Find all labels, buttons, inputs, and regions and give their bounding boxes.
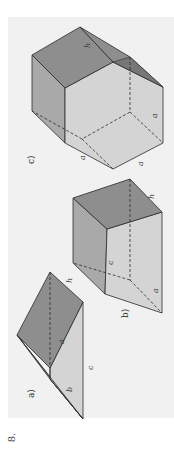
prism-c: h a a a c) bbox=[26, 27, 163, 169]
edge-label-a: a bbox=[78, 155, 87, 160]
figure-number: 8. bbox=[6, 433, 17, 443]
edge-label-c: c bbox=[86, 365, 95, 370]
prisms-figure: h a a a c) h c a b) h a c b a) bbox=[0, 0, 174, 451]
edge-label-b: b bbox=[65, 387, 74, 392]
edge-label-c: c bbox=[106, 260, 115, 265]
panel-label-a: a) bbox=[26, 389, 36, 398]
panel-label-b: b) bbox=[120, 309, 130, 318]
edge-label-a: a bbox=[150, 113, 159, 118]
edge-label-a: a bbox=[151, 288, 160, 293]
edge-label-a: a bbox=[57, 339, 66, 344]
prism-b: h c a b) bbox=[73, 179, 162, 318]
edge-label-a: a bbox=[136, 161, 145, 166]
edge-label-h: h bbox=[147, 194, 156, 199]
edge-label-h: h bbox=[83, 43, 92, 48]
edge-label-h: h bbox=[65, 278, 74, 283]
panel-label-c: c) bbox=[26, 155, 36, 164]
prism-a: h a c b a) bbox=[17, 272, 95, 419]
